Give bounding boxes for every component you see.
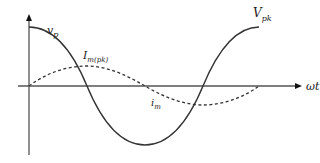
x-axis-arrow-icon [295,83,302,89]
omega-t-label: ωt [306,80,320,93]
vpk-label: Vpk [253,6,272,23]
y-axis-arrow-icon [26,14,32,21]
impk-label: Im(pk) [82,49,108,64]
waveform-diagram: vp Vpk Im(pk) im ωt [0,0,320,163]
vp-label: vp [47,24,58,39]
im-label: im [151,97,161,111]
